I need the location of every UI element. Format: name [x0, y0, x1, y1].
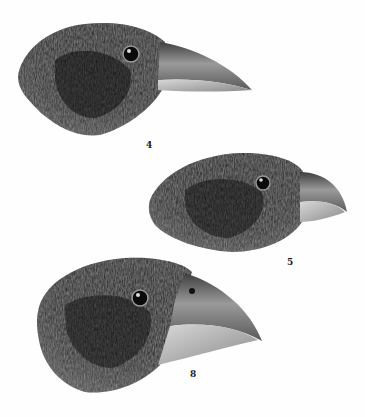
eye — [123, 46, 139, 62]
illustration-plate: 4 5 8 — [0, 0, 365, 417]
eye — [132, 290, 148, 306]
figure-label-5: 5 — [287, 257, 293, 267]
figure-label-4: 4 — [146, 140, 152, 150]
finch-head-fig-8 — [37, 258, 262, 393]
finch-heads-illustration — [0, 0, 365, 417]
eye — [256, 176, 270, 190]
finch-head-fig-4 — [18, 23, 252, 135]
figure-label-8: 8 — [190, 369, 196, 379]
nostril — [189, 288, 195, 294]
finch-head-fig-5 — [149, 153, 347, 252]
